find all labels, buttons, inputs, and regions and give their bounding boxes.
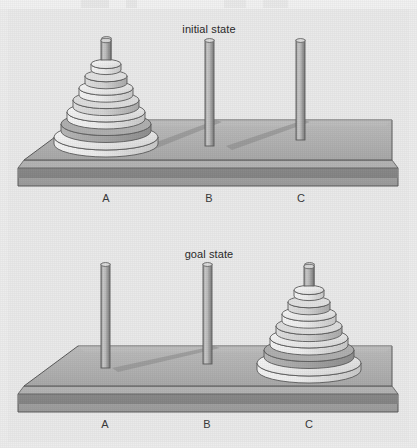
peg-A-with-disks (54, 37, 158, 158)
disk-1 (91, 59, 121, 74)
peg-C-with-disks (257, 263, 361, 384)
panel-goal-state: goal state (0, 224, 417, 448)
disk-1 (294, 285, 324, 300)
panel-initial-state: initial state (0, 0, 417, 224)
peg-label-C-initial: C (281, 192, 321, 204)
peg-A (101, 263, 110, 369)
peg-label-C-goal: C (289, 418, 329, 430)
peg-label-B-initial: B (189, 192, 229, 204)
peg-B (205, 39, 214, 147)
peg-label-B-goal: B (187, 418, 227, 430)
peg-C (296, 39, 305, 141)
tower-of-hanoi-figure: initial state (0, 0, 417, 448)
peg-B (203, 263, 212, 365)
goal-state-stage (0, 224, 417, 448)
peg-label-A-initial: A (86, 192, 126, 204)
initial-state-stage (0, 0, 417, 224)
peg-label-A-goal: A (85, 418, 125, 430)
